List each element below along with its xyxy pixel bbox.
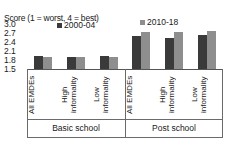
bar <box>43 57 52 69</box>
category-label: All EMDEs <box>28 72 61 118</box>
category-label: Low informality <box>191 72 224 118</box>
bar <box>141 32 150 70</box>
bar <box>165 38 174 69</box>
bar-group <box>125 24 158 69</box>
plot-area <box>27 24 223 69</box>
bar <box>198 35 207 69</box>
bar <box>174 32 183 69</box>
bar-group <box>60 24 93 69</box>
bar-group <box>92 24 125 69</box>
bar <box>109 57 118 69</box>
bar <box>100 56 109 69</box>
group-label-basic-school: Basic school <box>27 123 125 133</box>
bar-chart: Score (1 = worst, 4 = best) 3.0 2.7 2.4 … <box>0 0 229 150</box>
bar <box>207 31 216 69</box>
bar <box>34 56 43 69</box>
bar-group <box>27 24 60 69</box>
bar <box>67 57 76 69</box>
bar <box>132 36 141 69</box>
category-label: All EMDEs <box>126 72 159 118</box>
group-label-post-school: Post school <box>125 123 223 133</box>
bar <box>76 57 85 69</box>
category-label: Low informality <box>93 72 126 118</box>
bar-group <box>158 24 191 69</box>
y-axis-tick: 1.5 <box>4 65 16 74</box>
category-label: High informality <box>61 72 94 118</box>
category-label: High informality <box>159 72 192 118</box>
bar-group <box>190 24 223 69</box>
